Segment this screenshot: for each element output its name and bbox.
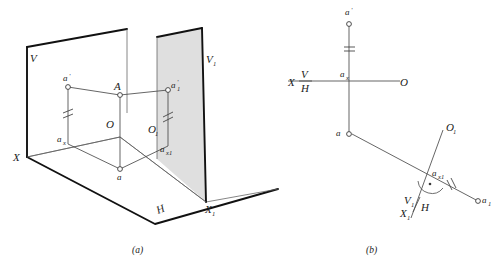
node-A — [118, 93, 123, 98]
svg-text:x1: x1 — [437, 173, 444, 180]
label-point-ax: a x — [57, 134, 66, 146]
h-plane-outline — [27, 157, 278, 224]
svg-text:a: a — [63, 73, 68, 83]
label-b-a: a — [336, 128, 341, 138]
svg-text:a: a — [482, 195, 487, 205]
right-angle-dot — [429, 183, 432, 186]
svg-text:1: 1 — [411, 201, 414, 208]
label-x1-axis: X 1 — [204, 203, 215, 217]
panel-b-group: a ' a a x X V H O O 1 a x1 — [287, 6, 491, 256]
label-b-origin-O: O — [400, 76, 408, 88]
figure-container: V X V 1 X 1 H O O 1 A a ' a — [0, 0, 500, 272]
tick-marks-vertical — [344, 47, 355, 51]
svg-text:1: 1 — [213, 60, 216, 67]
v-plane-top-edge — [27, 29, 127, 47]
line-ax-to-a — [68, 144, 120, 169]
label-b-ax: a x — [340, 69, 349, 81]
label-b-axis-x: X — [287, 76, 296, 88]
label-h-plane: H — [153, 201, 167, 216]
node-b-aprime — [347, 22, 352, 27]
svg-text:x: x — [345, 74, 349, 81]
svg-text:a: a — [57, 134, 62, 144]
label-origin-O: O — [106, 118, 114, 130]
svg-text:a: a — [432, 168, 437, 178]
label-v1-plane: V 1 — [206, 53, 216, 67]
svg-text:x1: x1 — [165, 149, 172, 156]
label-point-aprime: a ' — [63, 72, 71, 83]
panel-a-group: V X V 1 X 1 H O O 1 A a ' a — [12, 28, 278, 256]
svg-text:1: 1 — [212, 210, 215, 217]
svg-text:a: a — [171, 80, 176, 90]
label-point-a-top: a — [117, 172, 122, 182]
svg-text:a: a — [160, 144, 165, 154]
svg-text:1: 1 — [407, 214, 410, 221]
label-b-origin-O1: O 1 — [446, 121, 456, 135]
label-b-aprime: a ' — [345, 6, 353, 17]
svg-text:x: x — [62, 139, 66, 146]
label-v-plane: V — [30, 52, 38, 64]
node-a1prime — [166, 88, 171, 93]
node-aprime — [66, 85, 71, 90]
svg-text:H: H — [300, 82, 310, 94]
label-b-axis-vh: V H — [299, 68, 312, 94]
svg-text:': ' — [351, 6, 353, 13]
caption-b: (b) — [366, 245, 377, 256]
node-b-a — [347, 132, 352, 137]
svg-text:H: H — [420, 201, 430, 213]
svg-text:a: a — [345, 7, 350, 17]
svg-text:1: 1 — [155, 130, 158, 137]
node-a-top — [118, 167, 123, 172]
label-x-axis: X — [12, 151, 21, 163]
technical-drawing-svg: V X V 1 X 1 H O O 1 A a ' a — [0, 0, 500, 272]
v1-plane-shading — [157, 28, 206, 202]
svg-text:1: 1 — [177, 85, 180, 92]
node-b-a1 — [476, 199, 481, 204]
label-b-a1: a 1 — [482, 195, 491, 207]
svg-text:a: a — [340, 69, 345, 79]
oblique-projector — [352, 134, 478, 201]
caption-a: (a) — [132, 245, 143, 256]
svg-text:V: V — [301, 68, 309, 80]
svg-text:': ' — [69, 72, 71, 79]
projector-A-to-aprime — [68, 87, 120, 95]
svg-text:1: 1 — [488, 200, 491, 207]
svg-text:1: 1 — [453, 128, 456, 135]
label-point-A: A — [113, 80, 121, 92]
label-b-ax1: a x1 — [432, 168, 444, 180]
